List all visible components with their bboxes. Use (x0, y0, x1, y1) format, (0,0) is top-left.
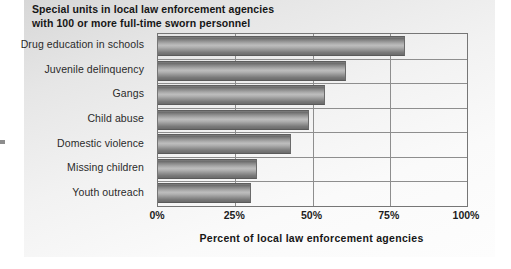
chart-title-line-2: with 100 or more full-time sworn personn… (32, 17, 362, 31)
bar[interactable] (158, 110, 309, 130)
bar[interactable] (158, 61, 346, 81)
bar-row (158, 34, 467, 59)
chart-title-line-1: Special units in local law enforcement a… (32, 3, 362, 17)
bar-row (158, 181, 467, 206)
page-edge-tick-mark (0, 140, 5, 144)
category-label: Juvenile delinquency (45, 63, 144, 75)
category-label: Missing children (67, 161, 144, 173)
category-label: Domestic violence (57, 137, 144, 149)
x-tick-label: 50% (301, 209, 322, 221)
bar-row (158, 59, 467, 84)
x-tick-label: 25% (224, 209, 245, 221)
bar[interactable] (158, 85, 325, 105)
category-label: Gangs (113, 87, 144, 99)
bar-row (158, 132, 467, 157)
plot-area (157, 33, 468, 207)
bar-row (158, 108, 467, 133)
x-tick-label: 75% (378, 209, 399, 221)
category-label: Child abuse (87, 112, 144, 124)
bar[interactable] (158, 183, 251, 203)
category-label: Youth outreach (72, 186, 144, 198)
bar[interactable] (158, 134, 291, 154)
bar[interactable] (158, 36, 405, 56)
x-tick-label: 100% (453, 209, 480, 221)
chart-panel: Special units in local law enforcement a… (24, 0, 495, 257)
page-background: Special units in local law enforcement a… (0, 0, 511, 269)
bar-row (158, 157, 467, 182)
bar[interactable] (158, 159, 257, 179)
bar-row (158, 83, 467, 108)
chart-title: Special units in local law enforcement a… (32, 3, 362, 30)
x-tick-label: 0% (149, 209, 164, 221)
category-label: Drug education in schools (21, 38, 144, 50)
x-axis-title: Percent of local law enforcement agencie… (157, 232, 466, 244)
category-axis-labels: Drug education in schoolsJuvenile delinq… (24, 33, 152, 205)
